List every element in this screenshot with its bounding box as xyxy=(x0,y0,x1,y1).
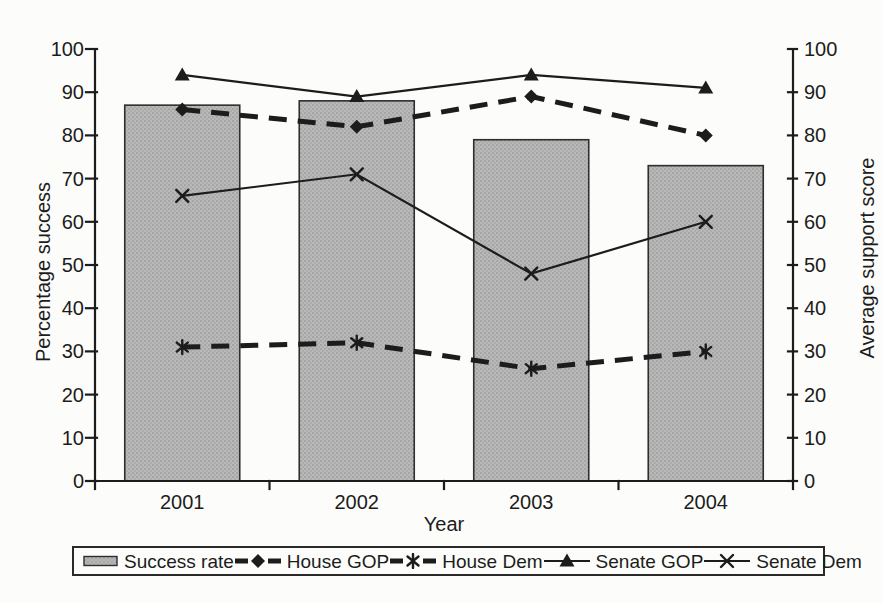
diamond-marker-icon xyxy=(524,90,538,104)
legend-asterisk-glyph xyxy=(408,554,419,568)
triangle-marker-icon xyxy=(543,553,591,569)
legend-label: House GOP xyxy=(287,552,389,571)
legend-item-house-gop: House GOP xyxy=(234,552,389,571)
line-senate-gop xyxy=(182,75,706,97)
marker-house-gop-2003 xyxy=(524,90,538,104)
y-tick-label-right-100: 100 xyxy=(804,38,837,60)
y-tick-label-left-50: 50 xyxy=(62,254,84,276)
diamond-marker-icon xyxy=(234,553,282,569)
bar-swatch-icon xyxy=(83,553,119,569)
bar-success-rate-2002 xyxy=(299,101,414,481)
plot-area: 0010102020303040405050606070708080909010… xyxy=(51,38,838,513)
y-tick-label-right-50: 50 xyxy=(804,254,826,276)
marker-house-gop-2004 xyxy=(699,128,713,142)
line-senate-dem xyxy=(182,174,706,273)
y-tick-label-left-20: 20 xyxy=(62,384,84,406)
y-tick-label-right-60: 60 xyxy=(804,211,826,233)
y-tick-label-right-10: 10 xyxy=(804,427,826,449)
y-tick-label-right-80: 80 xyxy=(804,124,826,146)
x-tick-label-2002: 2002 xyxy=(335,491,380,513)
y-tick-label-right-20: 20 xyxy=(804,384,826,406)
y-axis-title-right: Average support score xyxy=(856,158,878,359)
legend-label: Success rate xyxy=(124,552,234,571)
bar-success-rate-2003 xyxy=(474,140,589,481)
y-tick-label-left-100: 100 xyxy=(51,38,84,60)
x-tick-label-2001: 2001 xyxy=(160,491,205,513)
diamond-marker-icon xyxy=(251,554,265,568)
y-tick-label-right-30: 30 xyxy=(804,340,826,362)
y-tick-label-left-10: 10 xyxy=(62,427,84,449)
line-house-dem xyxy=(182,343,706,369)
diamond-marker-icon xyxy=(699,128,713,142)
combo-chart-figure: 0010102020303040405050606070708080909010… xyxy=(0,0,882,603)
y-tick-label-right-40: 40 xyxy=(804,297,826,319)
x-tick-label-2003: 2003 xyxy=(509,491,554,513)
x-axis-title: Year xyxy=(424,513,465,535)
legend-item-success-rate: Success rate xyxy=(83,552,234,571)
legend-label: House Dem xyxy=(442,552,542,571)
y-axis-title-left: Percentage success xyxy=(32,182,54,362)
legend-item-senate-gop: Senate GOP xyxy=(543,552,704,571)
marker-senate-gop-2003 xyxy=(524,67,539,80)
y-tick-label-left-60: 60 xyxy=(62,211,84,233)
marker-senate-gop-2001 xyxy=(175,67,190,80)
y-tick-label-left-80: 80 xyxy=(62,124,84,146)
y-tick-label-left-90: 90 xyxy=(62,81,84,103)
bar-success-rate-2004 xyxy=(648,166,763,481)
chart-legend: Success rate House GOP House Dem Senate … xyxy=(72,546,825,576)
y-tick-label-left-40: 40 xyxy=(62,297,84,319)
y-tick-label-right-0: 0 xyxy=(804,470,815,492)
triangle-marker-icon xyxy=(175,67,190,80)
triangle-marker-icon xyxy=(524,67,539,80)
legend-item-house-dem: House Dem xyxy=(389,552,542,571)
legend-label: Senate Dem xyxy=(756,552,862,571)
y-tick-label-left-70: 70 xyxy=(62,168,84,190)
legend-label: Senate GOP xyxy=(596,552,704,571)
x-tick-label-2004: 2004 xyxy=(684,491,729,513)
bar-swatch xyxy=(84,557,117,566)
chart-canvas: 0010102020303040405050606070708080909010… xyxy=(0,0,882,603)
x-marker-icon xyxy=(703,553,751,569)
y-tick-label-left-30: 30 xyxy=(62,340,84,362)
y-tick-label-right-90: 90 xyxy=(804,81,826,103)
y-tick-label-right-70: 70 xyxy=(804,168,826,190)
y-tick-label-left-0: 0 xyxy=(73,470,84,492)
legend-diamond-glyph xyxy=(251,554,265,568)
asterisk-marker-icon xyxy=(389,553,437,569)
legend-item-senate-dem: Senate Dem xyxy=(703,552,862,571)
line-house-gop xyxy=(182,97,706,136)
bar-success-rate-2001 xyxy=(125,105,240,481)
